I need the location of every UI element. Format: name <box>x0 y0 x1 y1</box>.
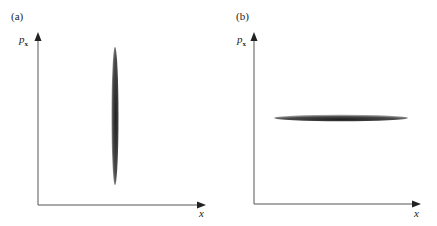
y-axis-subscript: x <box>243 40 247 48</box>
panel-label-a: (a) <box>11 10 23 22</box>
phase-space-diagram <box>0 0 437 226</box>
y-axis-subscript: x <box>25 40 29 48</box>
panel-label-b: (b) <box>236 10 249 22</box>
panel-b <box>251 32 422 208</box>
y-axis-arrow-icon <box>251 32 258 41</box>
y-axis-label-a: px <box>19 33 28 48</box>
phase-ellipse-horizontal <box>274 115 408 121</box>
x-axis-label-b: x <box>414 207 419 219</box>
panel-a <box>35 32 207 209</box>
y-axis-arrow-icon <box>35 32 42 41</box>
phase-ellipse-vertical <box>112 47 119 185</box>
x-axis-label-a: x <box>199 207 204 219</box>
y-axis-label-b: px <box>237 33 246 48</box>
